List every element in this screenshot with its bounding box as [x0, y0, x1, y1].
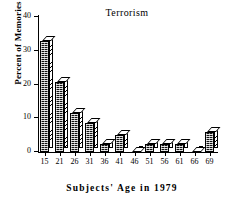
bar-front-face [145, 144, 154, 152]
bar [100, 139, 113, 152]
x-axis-tick-label: 51 [142, 157, 158, 166]
x-axis-tick-label: 41 [112, 157, 128, 166]
x-axis-tick-label: 56 [157, 157, 173, 166]
x-axis-tick-label: 61 [172, 157, 188, 166]
bar [205, 127, 218, 152]
y-axis-tick: 40 [34, 16, 39, 17]
x-axis-tick [120, 152, 121, 156]
bar [40, 36, 53, 152]
bar [70, 108, 83, 152]
x-axis-tick [210, 152, 211, 156]
x-axis-tick [90, 152, 91, 156]
y-axis-tick-label: 40 [23, 11, 31, 20]
y-axis-tick: 30 [34, 50, 39, 51]
x-axis-tick [180, 152, 181, 156]
bar-front-face [175, 144, 184, 152]
bar-front-face [115, 135, 124, 152]
y-axis-tick: 0 [34, 151, 39, 152]
bar-side-face [79, 109, 83, 148]
y-axis-tick: 10 [34, 117, 39, 118]
x-axis-tick-label: 31 [82, 157, 98, 166]
plot-area: 010203040 152126313641465156616669 [38, 17, 218, 152]
y-axis-tick-label: 30 [23, 45, 31, 54]
bar [145, 139, 158, 152]
x-axis-tick-label: 66 [187, 157, 203, 166]
bar [160, 139, 173, 152]
bar [130, 147, 143, 152]
x-axis-tick [105, 152, 106, 156]
x-axis-tick-label: 36 [97, 157, 113, 166]
x-axis-tick-label: 46 [127, 157, 143, 166]
bar-side-face [94, 119, 98, 148]
x-axis-tick [165, 152, 166, 156]
x-axis-tick-label: 69 [202, 157, 218, 166]
bar [85, 118, 98, 152]
bar-front-face [40, 41, 49, 152]
x-axis-tick [150, 152, 151, 156]
x-axis-tick-label: 21 [52, 157, 68, 166]
bar-front-face [205, 132, 214, 152]
bar [190, 147, 203, 152]
x-axis-tick [135, 152, 136, 156]
y-axis-label: Percent of Memories [13, 0, 23, 103]
bar-side-face [49, 37, 53, 148]
x-axis-tick [45, 152, 46, 156]
x-axis-line [38, 152, 218, 153]
bar [55, 77, 68, 152]
bar-chart: Terrorism Percent of Memories 010203040 … [0, 0, 228, 197]
x-axis-tick [75, 152, 76, 156]
bar-front-face [55, 82, 64, 152]
x-axis-tick-label: 26 [67, 157, 83, 166]
bar [115, 130, 128, 152]
bar [175, 139, 188, 152]
x-axis-tick [195, 152, 196, 156]
y-axis-tick-label: 20 [23, 79, 31, 88]
y-axis-tick: 20 [34, 84, 39, 85]
y-axis-tick-label: 10 [23, 112, 31, 121]
bar-front-face [160, 144, 169, 152]
x-axis-tick-label: 15 [37, 157, 53, 166]
x-axis-label: Subjects' Age in 1979 [0, 183, 228, 193]
bar-front-face [85, 123, 94, 152]
y-axis-tick-label: 0 [27, 146, 31, 155]
bar-front-face [70, 113, 79, 152]
bar-front-face [100, 144, 109, 152]
x-axis-tick [60, 152, 61, 156]
bar-side-face [64, 78, 68, 148]
